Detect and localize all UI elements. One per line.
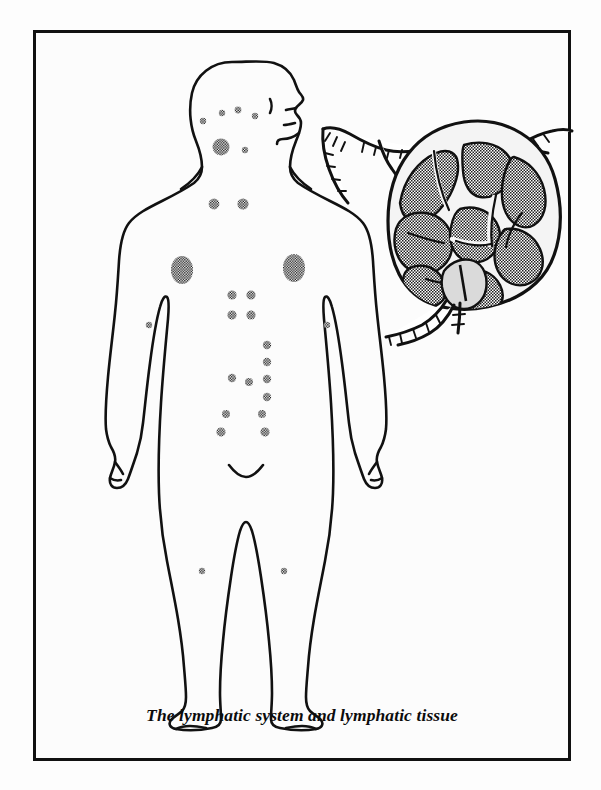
lymphatic-system-illustration xyxy=(36,33,574,764)
ear-line xyxy=(270,99,272,113)
mesenteric-node-2 xyxy=(245,378,253,386)
para-aortic-node-4 xyxy=(263,393,271,401)
illustration-plate-frame: The lymphatic system and lymphatic tissu… xyxy=(33,30,571,761)
lymph-node-markers xyxy=(146,107,330,575)
upper-abdominal-node-4 xyxy=(246,310,255,319)
epitrochlear-node-right xyxy=(324,322,330,328)
inguinal-node-left xyxy=(216,427,225,436)
iliac-node-left xyxy=(222,410,230,418)
crotch-line xyxy=(229,465,263,477)
para-aortic-node-3 xyxy=(263,375,271,383)
human-body-outline xyxy=(106,61,387,730)
epitrochlear-node-left xyxy=(146,322,152,328)
iliac-node-right xyxy=(258,410,266,418)
popliteal-node-right xyxy=(281,568,287,574)
occipital-node-marker xyxy=(200,118,206,124)
para-aortic-node-2 xyxy=(263,358,271,366)
submental-node-marker xyxy=(242,147,248,153)
supraclavicular-node-left xyxy=(209,199,220,210)
hilum-region xyxy=(442,259,487,309)
lymph-node-cross-section xyxy=(323,121,572,345)
figure-area: The lymphatic system and lymphatic tissu… xyxy=(36,33,568,758)
popliteal-node-left xyxy=(199,568,205,574)
para-aortic-node-1 xyxy=(263,341,271,349)
upper-abdominal-node-2 xyxy=(246,290,255,299)
supraclavicular-node-right xyxy=(237,198,248,209)
axillary-node-right xyxy=(283,254,305,282)
mesenteric-node-1 xyxy=(228,374,236,382)
parotid-node-marker xyxy=(235,107,242,114)
upper-abdominal-node-1 xyxy=(227,290,236,299)
page-canvas: The lymphatic system and lymphatic tissu… xyxy=(0,0,601,790)
inguinal-node-right xyxy=(260,427,269,436)
mouth-line xyxy=(284,123,295,125)
cervical-node-cluster xyxy=(213,139,230,156)
face-profile-detail xyxy=(286,108,296,110)
preauricular-node-marker xyxy=(219,110,225,116)
facial-node-marker xyxy=(252,113,258,119)
upper-abdominal-node-3 xyxy=(227,310,236,319)
plate-caption: The lymphatic system and lymphatic tissu… xyxy=(36,705,568,726)
afferent-vessel-upper-left xyxy=(323,128,422,152)
axillary-node-left xyxy=(171,256,193,284)
body-contour xyxy=(106,61,387,730)
